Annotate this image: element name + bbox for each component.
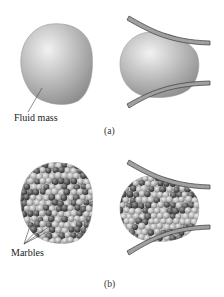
marble: [92, 238, 99, 245]
marble: [45, 167, 51, 173]
marble: [46, 243, 53, 250]
marble: [116, 207, 123, 214]
marble: [197, 239, 204, 246]
marble: [132, 224, 138, 230]
marble: [48, 215, 55, 222]
marble: [74, 238, 81, 245]
marble: [14, 232, 21, 239]
marble: [157, 201, 163, 207]
marble: [121, 224, 127, 230]
marble: [114, 192, 121, 199]
marble: [179, 175, 185, 181]
marble: [89, 167, 95, 173]
fluid-mass-label: Fluid mass: [14, 112, 58, 123]
marble: [24, 205, 30, 211]
marble: [127, 191, 134, 198]
marble: [138, 223, 145, 230]
marble: [191, 240, 198, 247]
marble: [87, 194, 93, 200]
marble: [18, 239, 24, 245]
marble: [23, 162, 30, 169]
marble: [40, 189, 46, 195]
marble: [49, 238, 55, 244]
marble: [83, 243, 90, 250]
marble: [93, 173, 99, 179]
caption-a: (a): [104, 126, 115, 137]
marble: [164, 202, 170, 208]
marble: [179, 239, 186, 246]
marble: [192, 174, 199, 181]
marble: [15, 211, 22, 218]
marble: [130, 185, 137, 192]
marble: [195, 170, 201, 176]
marble: [71, 157, 77, 163]
marble: [61, 216, 68, 223]
marbles-label: Marbles: [11, 247, 44, 258]
marble: [45, 156, 52, 163]
marble: [198, 196, 205, 203]
marble: [181, 169, 188, 176]
marble: [83, 232, 89, 238]
marble: [154, 240, 160, 246]
marble: [92, 195, 98, 201]
marble: [151, 181, 157, 187]
marble: [76, 243, 83, 250]
marble: [125, 234, 132, 241]
marble: [27, 157, 33, 163]
marble: [120, 181, 126, 187]
marble: [89, 243, 96, 250]
marble: [148, 186, 154, 192]
marble: [170, 202, 176, 208]
marble: [157, 192, 163, 198]
marble: [161, 240, 168, 247]
marble: [88, 221, 95, 228]
marble: [37, 227, 43, 233]
marble: [85, 237, 92, 244]
marble: [92, 216, 98, 222]
marble: [74, 205, 80, 211]
marble: [86, 163, 93, 170]
marble: [178, 196, 184, 202]
marble: [55, 237, 61, 243]
marble: [24, 194, 30, 200]
marble: [68, 216, 74, 222]
marble: [15, 157, 21, 163]
marble: [83, 157, 90, 164]
marble: [189, 169, 195, 175]
marble: [24, 184, 30, 190]
marble: [154, 228, 160, 234]
marble: [120, 191, 127, 198]
marble: [188, 234, 195, 241]
marble: [51, 156, 58, 163]
marble: [152, 192, 158, 198]
marble: [114, 180, 120, 186]
marble: [77, 157, 83, 163]
marble: [21, 157, 27, 163]
marble: [52, 199, 59, 206]
marble: [132, 202, 139, 209]
marble: [163, 170, 170, 177]
marble: [61, 195, 68, 202]
marble: [92, 205, 99, 212]
marble: [167, 186, 173, 192]
marble: [31, 162, 38, 169]
marble: [49, 226, 56, 233]
marble: [61, 205, 68, 212]
marble: [80, 238, 87, 245]
marble: [79, 216, 86, 223]
marble: [198, 218, 204, 224]
marble: [88, 189, 95, 196]
marble: [18, 173, 25, 180]
marble: [30, 226, 37, 233]
marble: [55, 227, 62, 234]
marble: [18, 227, 25, 234]
marble: [182, 235, 188, 241]
marble: [14, 200, 21, 207]
marble: [113, 224, 119, 230]
marble: [18, 216, 25, 223]
marble: [113, 235, 120, 242]
marble: [120, 235, 127, 242]
marble: [46, 178, 52, 184]
marble: [198, 175, 205, 182]
marble: [114, 170, 121, 177]
